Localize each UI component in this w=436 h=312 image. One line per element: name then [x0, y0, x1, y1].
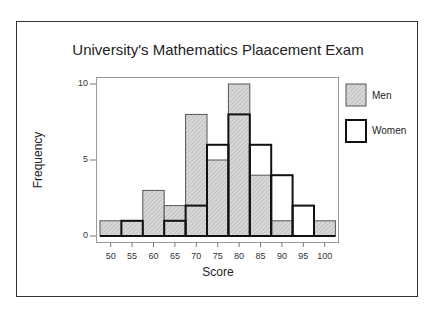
men-bar — [207, 160, 228, 236]
men-bar — [186, 114, 207, 236]
legend — [346, 84, 366, 142]
men-bar — [228, 84, 249, 236]
x-tick-label: 100 — [313, 251, 337, 261]
x-tick-label: 70 — [184, 251, 208, 261]
men-bar — [271, 221, 292, 236]
y-tick-label: 0 — [68, 230, 88, 240]
y-axis-label: Frequency — [31, 132, 45, 189]
x-tick-label: 50 — [99, 251, 123, 261]
men-bar — [314, 221, 335, 236]
men-bar — [250, 175, 271, 236]
men-bar — [121, 221, 142, 236]
x-axis-label: Score — [202, 265, 233, 279]
x-tick-label: 90 — [270, 251, 294, 261]
y-tick-label: 5 — [68, 154, 88, 164]
legend-swatch-women — [346, 120, 366, 142]
men-bars — [100, 84, 335, 236]
legend-label-men: Men — [372, 90, 391, 101]
women-bar — [293, 206, 314, 236]
x-tick-label: 80 — [227, 251, 251, 261]
x-tick-label: 55 — [120, 251, 144, 261]
legend-swatch-men — [346, 84, 366, 106]
x-tick-label: 75 — [206, 251, 230, 261]
legend-label-women: Women — [372, 125, 406, 136]
x-tick-label: 85 — [249, 251, 273, 261]
x-tick-label: 65 — [163, 251, 187, 261]
y-tick-label: 10 — [68, 78, 88, 88]
men-bar — [100, 221, 121, 236]
men-bar — [143, 190, 164, 236]
x-tick-label: 60 — [142, 251, 166, 261]
x-tick-label: 95 — [291, 251, 315, 261]
